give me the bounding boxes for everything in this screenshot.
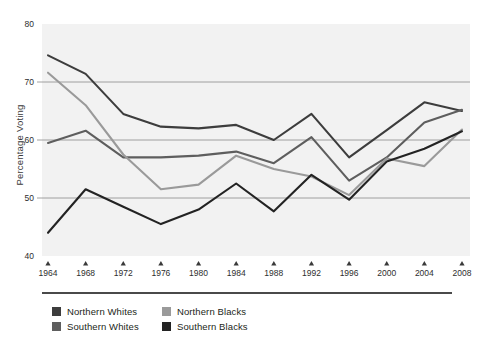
legend-item-northern-whites[interactable]: Northern Whites xyxy=(52,304,148,319)
legend-swatch-icon xyxy=(162,322,171,331)
chart-plot-area: 4050607080 19641968197219761980198419881… xyxy=(0,0,482,290)
legend-item-southern-whites[interactable]: Southern Whites xyxy=(52,319,148,334)
figure-root: 4050607080 19641968197219761980198419881… xyxy=(0,0,482,350)
chart-legend: Northern WhitesNorthern BlacksSouthern W… xyxy=(0,292,482,350)
svg-text:1976: 1976 xyxy=(151,268,170,278)
legend-swatch-icon xyxy=(52,322,61,331)
legend-label: Northern Whites xyxy=(67,306,137,317)
svg-text:2000: 2000 xyxy=(377,268,396,278)
legend-label: Southern Blacks xyxy=(177,321,248,332)
svg-text:40: 40 xyxy=(25,251,35,261)
svg-text:2008: 2008 xyxy=(453,268,472,278)
legend-label: Southern Whites xyxy=(67,321,139,332)
legend-label: Northern Blacks xyxy=(177,306,246,317)
svg-text:1988: 1988 xyxy=(264,268,283,278)
legend-swatch-icon xyxy=(52,307,61,316)
legend-items: Northern WhitesNorthern BlacksSouthern W… xyxy=(52,304,248,334)
legend-swatch-icon xyxy=(162,307,171,316)
y-axis-title-text: Percentage Voting xyxy=(14,104,25,185)
svg-text:1984: 1984 xyxy=(227,268,246,278)
svg-text:1964: 1964 xyxy=(39,268,58,278)
svg-text:1992: 1992 xyxy=(302,268,321,278)
line-chart-svg: 4050607080 19641968197219761980198419881… xyxy=(0,0,482,290)
svg-text:1968: 1968 xyxy=(76,268,95,278)
legend-item-northern-blacks[interactable]: Northern Blacks xyxy=(162,304,248,319)
svg-text:1980: 1980 xyxy=(189,268,208,278)
legend-item-southern-blacks[interactable]: Southern Blacks xyxy=(162,319,248,334)
svg-text:1972: 1972 xyxy=(114,268,133,278)
svg-text:2004: 2004 xyxy=(415,268,434,278)
y-axis-title: Percentage Voting xyxy=(10,70,28,220)
svg-text:1996: 1996 xyxy=(340,268,359,278)
legend-divider xyxy=(42,292,452,294)
svg-text:80: 80 xyxy=(25,19,35,29)
x-axis-ticks: 1964196819721976198019841988199219962000… xyxy=(39,261,472,278)
